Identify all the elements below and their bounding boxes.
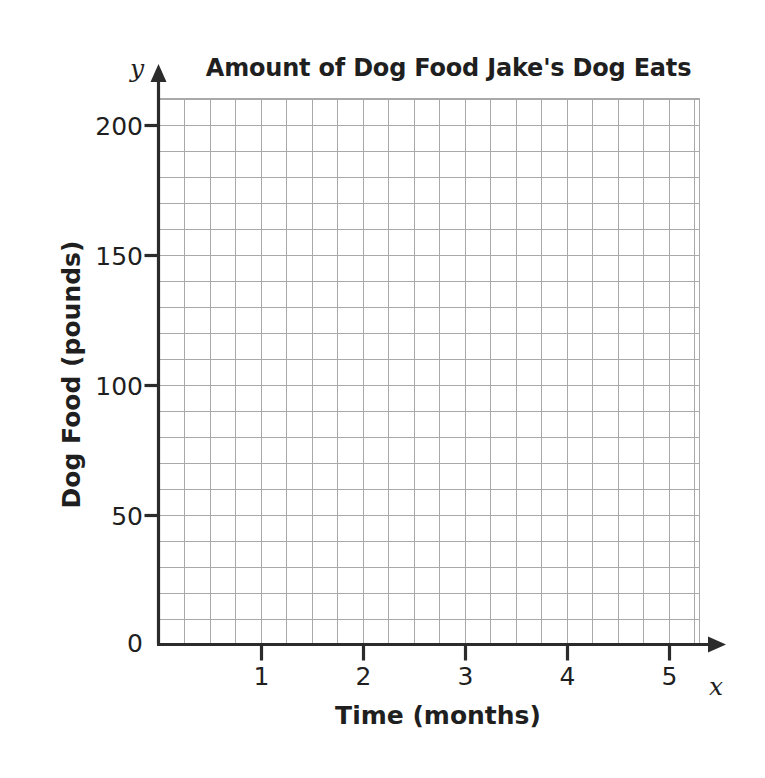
y-tick-label: 50 (63, 501, 143, 530)
y-tick-label: 100 (63, 371, 143, 400)
y-tick-label: 0 (63, 628, 143, 657)
axis-lines (151, 64, 727, 653)
chart-container: Amount of Dog Food Jake's Dog Eats y x D… (0, 0, 765, 778)
x-tick-label: 2 (334, 662, 394, 691)
grid-lines (159, 99, 700, 646)
x-tick-label: 4 (538, 662, 598, 691)
x-axis-arrow-icon (708, 637, 726, 653)
y-axis-arrow-icon (151, 64, 167, 82)
tick-marks (145, 126, 670, 661)
x-tick-label: 3 (436, 662, 496, 691)
y-tick-label: 150 (63, 241, 143, 270)
x-tick-label: 1 (232, 662, 292, 691)
x-tick-label: 5 (640, 662, 700, 691)
y-tick-label: 200 (63, 111, 143, 140)
